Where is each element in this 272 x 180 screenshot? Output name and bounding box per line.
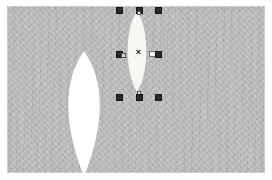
shape-lens-large[interactable] [68, 51, 100, 173]
app-root: × [0, 0, 272, 180]
drawing-canvas[interactable] [7, 6, 265, 173]
shape-lens-small[interactable] [128, 11, 147, 92]
vector-shape-layer [7, 6, 265, 173]
